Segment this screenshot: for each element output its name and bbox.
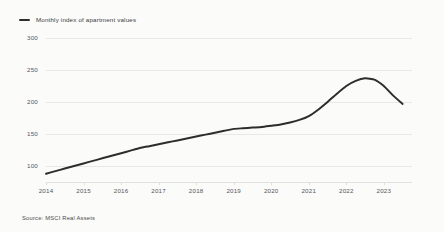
chart-figure: Monthly index of apartment values 100150…: [0, 0, 444, 232]
plot-area: 100150200250300 201420152016201720182019…: [46, 38, 412, 182]
x-axis-tick-2022: 2022: [339, 188, 354, 194]
x-axis-tick-2018: 2018: [189, 188, 204, 194]
source-note: Source: MSCI Real Assets: [22, 216, 95, 222]
chart-legend: Monthly index of apartment values: [19, 14, 136, 26]
legend-label: Monthly index of apartment values: [36, 17, 136, 23]
x-axis-tick-2017: 2017: [151, 188, 166, 194]
x-axis-tick-2023: 2023: [377, 188, 392, 194]
x-axis-tick-2020: 2020: [264, 188, 279, 194]
line-series-apartment-values: [46, 38, 412, 182]
series-path: [46, 78, 403, 173]
x-axis-tick-2014: 2014: [39, 188, 54, 194]
y-axis-tick-100: 100: [27, 163, 38, 169]
y-axis-tick-300: 300: [27, 35, 38, 41]
x-axis-tick-2016: 2016: [114, 188, 129, 194]
y-axis-tick-150: 150: [27, 131, 38, 137]
x-axis-tick-2019: 2019: [226, 188, 241, 194]
y-axis-tick-250: 250: [27, 67, 38, 73]
x-axis-tick-2021: 2021: [301, 188, 316, 194]
legend-line-marker-icon: [19, 19, 30, 21]
x-axis-baseline: [46, 182, 412, 183]
y-axis-tick-200: 200: [27, 99, 38, 105]
x-axis-tick-2015: 2015: [76, 188, 91, 194]
